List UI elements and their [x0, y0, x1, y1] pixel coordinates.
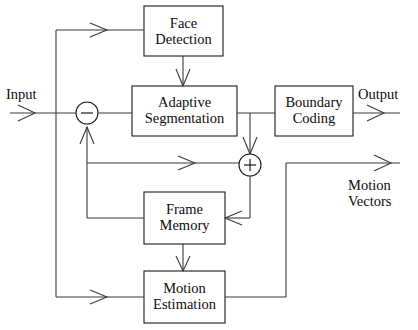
- block-boundary-coding[interactable]: [275, 86, 353, 136]
- label-input: Input: [6, 86, 37, 102]
- label-motion-vectors: Motion Vectors: [348, 177, 392, 209]
- block-adaptive-segmentation[interactable]: [132, 86, 237, 136]
- label-output: Output: [358, 86, 398, 102]
- block-frame-memory[interactable]: [144, 192, 225, 244]
- block-diagram: Face Detection Adaptive Segmentation Bou…: [0, 0, 418, 330]
- block-motion-estimation[interactable]: [144, 271, 225, 323]
- diagram-canvas: [0, 0, 418, 330]
- block-face-detection[interactable]: [144, 6, 223, 56]
